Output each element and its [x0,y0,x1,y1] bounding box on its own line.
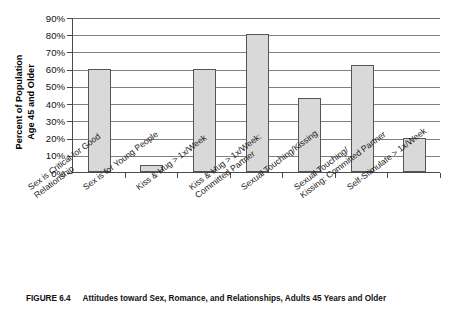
y-axis-ticks: 90% 80% 70% 60% 50% 40% 30% 20% [0,18,72,173]
figure-container: Percent of Population Age 45 and Older 9… [0,0,462,309]
y-tick-label: 70% [46,46,65,59]
y-tick-label: 60% [46,63,65,76]
y-tick-label: 80% [46,29,65,42]
bar-kiss-and-hug-gt-1x-week [193,69,216,172]
y-tick-label: 90% [46,12,65,25]
y-tick-label: 40% [46,98,65,111]
figure-caption: FIGURE 6.4Attitudes toward Sex, Romance,… [26,293,456,304]
y-tick-label: 50% [46,80,65,93]
y-tick-label: 20% [46,132,65,145]
figure-caption-number: FIGURE 6.4 [26,294,71,303]
figure-caption-text: Attitudes toward Sex, Romance, and Relat… [83,294,386,303]
gridline-90 [73,18,440,19]
y-tick-label: 30% [46,115,65,128]
x-axis-labels: Sex is Critical for Good Relationship Se… [0,178,462,283]
